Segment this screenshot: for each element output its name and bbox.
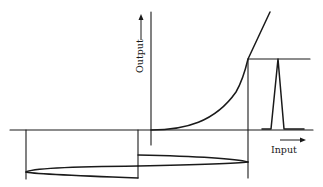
output-axis-label-group: Output (134, 39, 145, 73)
diagram-canvas: Output Input (0, 0, 323, 187)
input-axis-label: Input (271, 144, 297, 155)
input-waveform-right-lens-upper (138, 155, 248, 162)
output-arrow-icon (139, 14, 144, 20)
output-axis-label: Output (134, 39, 145, 73)
input-waveform-left-lens (26, 166, 138, 172)
output-pulse (262, 59, 304, 129)
input-arrow-icon (300, 138, 306, 143)
transfer-curve (151, 12, 270, 130)
input-waveform-left-lens-lower (26, 172, 138, 178)
input-waveform-right-lens-lower (138, 162, 248, 166)
